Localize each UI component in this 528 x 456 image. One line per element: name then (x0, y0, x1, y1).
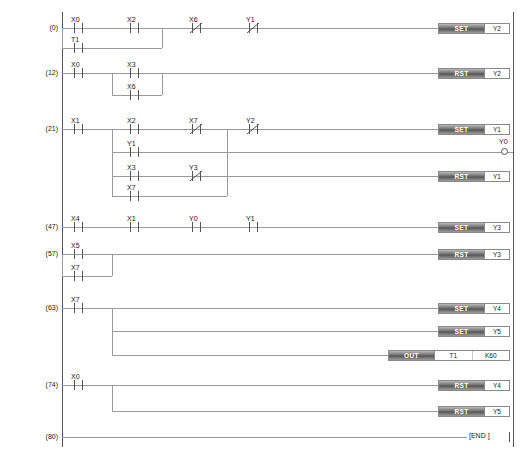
contact-label-y0: Y0 (189, 215, 198, 222)
instruction-opcode: RST (439, 407, 485, 416)
instruction-operand: Y3 (485, 250, 509, 259)
instruction-opcode: SET (439, 24, 485, 33)
coil-label-y0: Y0 (499, 138, 508, 145)
instruction-operand: K60 (473, 351, 510, 360)
instruction-opcode: SET (439, 304, 485, 313)
instruction-operand: Y2 (485, 24, 509, 33)
coil-y0[interactable] (501, 148, 508, 155)
instruction-set-y4[interactable]: SETY4 (438, 303, 510, 314)
contact-y0-no[interactable] (188, 220, 204, 234)
instruction-set-y5[interactable]: SETY5 (438, 326, 510, 337)
instruction-opcode: RST (439, 172, 485, 181)
instruction-set-y1[interactable]: SETY1 (438, 124, 510, 135)
contact-x7-no[interactable] (70, 301, 86, 315)
contact-label-x5: X5 (71, 242, 80, 249)
contact-label-t1: T1 (71, 36, 79, 43)
instruction-set-y3[interactable]: SETY3 (438, 222, 510, 233)
step-number: (12) (18, 69, 58, 76)
instruction-operand: Y5 (485, 327, 509, 336)
instruction-rst-y2[interactable]: RSTY2 (438, 68, 510, 79)
contact-label-x0: X0 (71, 61, 80, 68)
contact-x3-no[interactable] (126, 66, 142, 80)
instruction-opcode: SET (439, 125, 485, 134)
contact-x5-no[interactable] (70, 247, 86, 261)
contact-y2-nc[interactable] (245, 122, 261, 136)
contact-x1-no[interactable] (126, 220, 142, 234)
contact-y3-nc[interactable] (188, 169, 204, 183)
step-number: (0) (18, 24, 58, 31)
contact-label-y1: Y1 (246, 215, 255, 222)
contact-x7-no[interactable] (126, 189, 142, 203)
contact-label-x4: X4 (71, 215, 80, 222)
instruction-rst-y3[interactable]: RSTY3 (438, 249, 510, 260)
contact-label-x3: X3 (127, 164, 136, 171)
contact-label-x6: X6 (189, 16, 198, 23)
contact-label-x0: X0 (71, 373, 80, 380)
contact-x3-no[interactable] (126, 169, 142, 183)
contact-x0-no[interactable] (70, 378, 86, 392)
contact-label-y1: Y1 (246, 16, 255, 23)
contact-x7-no[interactable] (70, 269, 86, 283)
contact-label-y1: Y1 (127, 140, 136, 147)
instruction-opcode: RST (439, 69, 485, 78)
contact-y1-no[interactable] (126, 145, 142, 159)
instruction-opcode: RST (439, 250, 485, 259)
contact-label-x6: X6 (127, 83, 136, 90)
contact-x7-nc[interactable] (188, 122, 204, 136)
contact-label-x3: X3 (127, 61, 136, 68)
contact-label-x2: X2 (127, 16, 136, 23)
contact-x0-no[interactable] (70, 66, 86, 80)
contact-x2-no[interactable] (126, 21, 142, 35)
step-number: (47) (18, 223, 58, 230)
instruction-set-y2[interactable]: SETY2 (438, 23, 510, 34)
contact-y1-nc[interactable] (245, 21, 261, 35)
contact-label-x1: X1 (127, 215, 136, 222)
contact-label-x7: X7 (127, 184, 136, 191)
contact-label-x7: X7 (189, 117, 198, 124)
contact-y1-no[interactable] (245, 220, 261, 234)
contact-x6-nc[interactable] (188, 21, 204, 35)
instruction-operand: Y1 (485, 172, 509, 181)
instruction-operand: Y5 (485, 407, 509, 416)
instruction-rst-y1[interactable]: RSTY1 (438, 171, 510, 182)
instruction-out-t1-k60[interactable]: OUTT1K60 (388, 350, 510, 361)
contact-label-x0: X0 (71, 16, 80, 23)
contact-label-y3: Y3 (189, 164, 198, 171)
step-number: (57) (18, 250, 58, 257)
contact-x0-no[interactable] (70, 21, 86, 35)
step-number: (21) (18, 125, 58, 132)
contact-label-x7: X7 (71, 296, 80, 303)
contact-x6-no[interactable] (126, 88, 142, 102)
instruction-opcode: OUT (389, 351, 435, 360)
contact-t1-no[interactable] (70, 41, 86, 55)
contact-label-x1: X1 (71, 117, 80, 124)
step-number: (74) (18, 381, 58, 388)
instruction-operand: Y4 (485, 304, 509, 313)
instruction-operand: Y1 (485, 125, 509, 134)
end-instruction[interactable]: [END ] (469, 432, 490, 440)
instruction-operand: Y3 (485, 223, 509, 232)
contact-label-y2: Y2 (246, 117, 255, 124)
contact-label-x7: X7 (71, 264, 80, 271)
instruction-opcode: RST (439, 381, 485, 390)
contact-x2-no[interactable] (126, 122, 142, 136)
contact-label-x2: X2 (127, 117, 136, 124)
instruction-operand: T1 (435, 351, 473, 360)
instruction-opcode: SET (439, 327, 485, 336)
step-number: (63) (18, 304, 58, 311)
instruction-operand: Y2 (485, 69, 509, 78)
contact-x1-no[interactable] (70, 122, 86, 136)
instruction-opcode: SET (439, 223, 485, 232)
instruction-rst-y4[interactable]: RSTY4 (438, 380, 510, 391)
instruction-rst-y5[interactable]: RSTY5 (438, 406, 510, 417)
instruction-operand: Y4 (485, 381, 509, 390)
contact-x4-no[interactable] (70, 220, 86, 234)
step-number: (80) (18, 433, 58, 440)
